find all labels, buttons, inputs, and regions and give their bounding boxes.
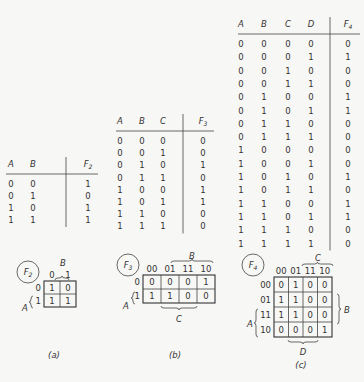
kmap-variable-label: B [344,305,350,315]
truth-table-cell: 1 [285,132,290,142]
diagram-canvas: ABF2001010101111F210110101BA(a) ABCF3000… [0,0,364,382]
truth-table-cell: 1 [261,106,266,116]
truth-table-cell: 1 [285,66,290,76]
truth-table-cell: 0 [285,92,290,102]
truth-table-cell: 1 [308,132,313,142]
kmap-variable-label: A [21,303,28,313]
kmap-variable-label: A [122,301,129,311]
truth-table-cell: 1 [285,239,290,249]
truth-table-cell: 0 [238,39,243,49]
truth-table-cell: 1 [261,212,266,222]
truth-table-output-cell: 0 [200,209,205,219]
column-header: D [308,19,315,29]
kmap-col-label: 00 [147,264,158,274]
truth-table-cell: 1 [308,239,313,249]
truth-table-cell: 0 [160,185,165,195]
column-header: B [30,159,36,169]
truth-table-cell: 0 [30,179,35,189]
column-header: A [7,159,14,169]
truth-table-cell: 1 [308,159,313,169]
truth-table-cell: 0 [285,145,290,155]
kmap-col-label: 01 [165,264,176,274]
column-header: A [237,19,244,29]
truth-table-cell: 0 [261,39,266,49]
variable-brace [288,340,318,344]
truth-table-output-cell: 0 [200,148,205,158]
kmap-cell: 1 [49,283,54,293]
truth-table-cell: 0 [117,160,122,170]
truth-table-cell: 0 [117,173,122,183]
kmap-row-label: 01 [260,295,271,305]
kmap-cell: 0 [149,277,154,287]
truth-table-cell: 0 [285,106,290,116]
panel-b: ABCF300000010010101101001101111001110F30… [116,114,215,360]
kmap-cell: 1 [293,280,298,290]
kmap-cell: 0 [185,291,190,301]
kmap-cell: 1 [203,277,208,287]
truth-table-output-cell: 1 [345,106,350,116]
kmap-col-label: 11 [183,264,194,274]
kmap-function-label: F3 [124,260,133,271]
column-header: C [285,19,291,29]
truth-table-output-cell: 0 [200,136,205,146]
kmap-variable-label: C [176,314,182,324]
truth-table-output-cell: 1 [345,199,350,209]
truth-table-output-cell: 0 [345,119,350,129]
truth-table-cell: 1 [139,221,144,231]
truth-table-cell: 0 [238,66,243,76]
truth-table-cell: 0 [261,172,266,182]
truth-table-output-cell: 0 [200,221,205,231]
truth-table-cell: 0 [160,136,165,146]
truth-table-output-cell: 1 [200,160,205,170]
truth-table-cell: 0 [308,66,313,76]
kmap-cell: 1 [322,325,327,335]
kmap-row-label: 1 [36,296,41,306]
truth-table-cell: 0 [308,119,313,129]
truth-table-cell: 1 [117,185,122,195]
truth-table-cell: 1 [139,173,144,183]
truth-table-cell: 1 [117,221,122,231]
truth-table-cell: 0 [238,92,243,102]
variable-brace [337,294,341,324]
truth-table-cell: 1 [160,173,165,183]
truth-table-cell: 0 [238,132,243,142]
kmap-row-label: 10 [260,325,271,335]
truth-table-cell: 1 [238,239,243,249]
truth-table-cell: 0 [139,136,144,146]
kmap-cell: 1 [279,295,284,305]
truth-table-cell: 1 [238,145,243,155]
truth-table-output-cell: 0 [345,185,350,195]
truth-table-output-cell: 0 [345,159,350,169]
kmap-cell: 0 [322,310,327,320]
kmap-row-label: 0 [135,277,140,287]
truth-table-cell: 1 [30,191,35,201]
truth-table-cell: 1 [285,185,290,195]
truth-table-cell: 0 [308,225,313,235]
truth-table-cell: 0 [308,145,313,155]
panel-c: ABCDF40000000011001000011001001010110110… [237,17,360,370]
truth-table-cell: 1 [8,215,13,225]
truth-table-cell: 1 [238,225,243,235]
truth-table-output-cell: 1 [345,92,350,102]
truth-table-cell: 1 [285,79,290,89]
truth-table-cell: 0 [117,148,122,158]
truth-table-cell: 1 [261,92,266,102]
truth-table-cell: 0 [285,39,290,49]
truth-table-cell: 0 [160,209,165,219]
truth-table-output-cell: 0 [200,173,205,183]
truth-table-cell: 1 [261,119,266,129]
truth-table-cell: 1 [139,160,144,170]
truth-table-cell: 1 [261,239,266,249]
kmap-col-label: 10 [319,266,330,276]
truth-table-cell: 1 [139,209,144,219]
truth-table-output-cell: 1 [345,212,350,222]
column-header: C [160,116,166,126]
truth-table-cell: 0 [308,172,313,182]
kmap-cell: 0 [203,291,208,301]
truth-table-output-cell: 0 [345,225,350,235]
truth-table-cell: 0 [238,106,243,116]
truth-table-cell: 1 [238,185,243,195]
truth-table-cell: 1 [308,212,313,222]
column-header: A [116,116,123,126]
kmap-row-label: 0 [36,283,41,293]
